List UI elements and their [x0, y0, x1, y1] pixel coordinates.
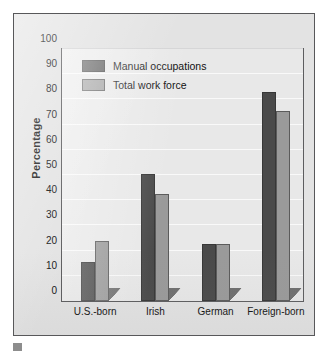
y-axis-tick-label: 20: [46, 234, 57, 245]
chart-panel: Percentage 1009080706050403020100 Manual…: [13, 13, 315, 336]
y-axis-tick-label: 90: [46, 58, 57, 69]
bar[interactable]: [276, 111, 290, 301]
bar-shadow: [169, 288, 181, 301]
figure: Percentage 1009080706050403020100 Manual…: [0, 0, 329, 354]
x-axis-tick-label: Foreign-born: [247, 306, 304, 317]
y-axis-tick-label: 100: [40, 33, 57, 44]
legend-item[interactable]: Manual occupations: [82, 58, 206, 74]
caption-marker-icon: [13, 343, 22, 351]
legend-item[interactable]: Total work force: [82, 77, 206, 93]
y-axis-tick-label: 70: [46, 108, 57, 119]
bar[interactable]: [141, 174, 155, 301]
legend-label: Manual occupations: [113, 60, 206, 72]
y-axis-tick-label: 80: [46, 83, 57, 94]
bar-shadow: [109, 288, 121, 301]
bar[interactable]: [262, 92, 276, 301]
bar[interactable]: [202, 244, 216, 301]
y-axis-tick-label: 10: [46, 259, 57, 270]
bar-shadow: [230, 288, 242, 301]
bar[interactable]: [155, 194, 169, 301]
legend-swatch: [82, 60, 105, 72]
legend-swatch: [82, 79, 105, 91]
legend-label: Total work force: [113, 79, 187, 91]
bar[interactable]: [216, 244, 230, 301]
bar[interactable]: [95, 241, 109, 301]
x-axis-tick-label: U.S.-born: [74, 306, 117, 317]
plot-area: 1009080706050403020100 Manual occupation…: [61, 48, 304, 302]
bar-group: [262, 49, 290, 301]
x-axis-ticks: U.S.-bornIrishGermanForeign-born: [61, 306, 304, 322]
bar-shadow: [290, 288, 302, 301]
caption-strip: [13, 343, 315, 354]
bar[interactable]: [81, 262, 95, 301]
y-axis-title: Percentage: [30, 93, 42, 203]
y-axis-tick-label: 60: [46, 133, 57, 144]
y-axis-tick-label: 0: [51, 285, 57, 296]
y-axis-tick-label: 50: [46, 159, 57, 170]
x-axis-tick-label: Irish: [146, 306, 165, 317]
legend: Manual occupationsTotal work force: [82, 58, 206, 96]
y-axis-tick-label: 40: [46, 184, 57, 195]
x-axis-tick-label: German: [198, 306, 234, 317]
y-axis-tick-label: 30: [46, 209, 57, 220]
